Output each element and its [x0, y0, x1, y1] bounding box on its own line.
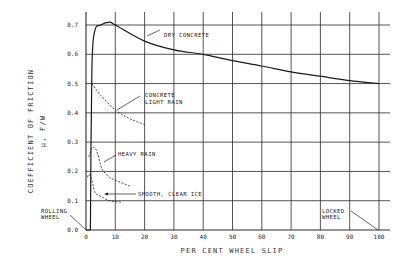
y-tick-label: 0.5	[67, 80, 78, 87]
friction-chart: 0.00.10.20.30.40.50.60.7 010203040506070…	[0, 0, 418, 266]
x-tick-label: 100	[374, 233, 385, 240]
y-tick-label: 0.4	[67, 109, 78, 116]
x-tick-label: 40	[200, 233, 208, 240]
annotation-light-rain-line1: CONCRETE	[145, 92, 175, 98]
y-axis-ticks: 0.00.10.20.30.40.50.60.7	[67, 21, 78, 233]
series-concrete-light-rain	[92, 84, 145, 125]
y-tick-label: 0.2	[67, 167, 78, 174]
annotation-rolling-wheel-line2: WHEEL	[41, 214, 60, 220]
annotation-rolling-wheel: ROLLING WHEEL	[41, 208, 86, 230]
x-tick-label: 10	[112, 233, 120, 240]
x-tick-label: 30	[170, 233, 178, 240]
y-axis-label: COEFFICIENT OF FRICTION	[27, 69, 35, 194]
y-tick-label: 0.0	[67, 226, 78, 233]
x-tick-label: 0	[84, 233, 88, 240]
annotation-dry-concrete-text: DRY CONCRETE	[164, 32, 209, 38]
annotation-light-rain: CONCRETE LIGHT RAIN	[117, 92, 183, 110]
x-tick-label: 80	[317, 233, 325, 240]
y-axis-sub-label: μ, F/W	[39, 115, 47, 148]
x-tick-label: 60	[258, 233, 266, 240]
x-tick-label: 20	[141, 233, 149, 240]
y-tick-label: 0.3	[67, 138, 78, 145]
series-dry-concrete	[90, 22, 379, 230]
y-tick-label: 0.1	[67, 197, 78, 204]
annotation-heavy-rain-text: HEAVY RAIN	[118, 151, 156, 157]
x-axis-ticks: 0102030405060708090100	[84, 233, 385, 240]
annotation-heavy-rain: HEAVY RAIN	[104, 151, 156, 162]
annotation-dry-concrete: DRY CONCRETE	[147, 30, 209, 38]
y-tick-label: 0.7	[67, 21, 78, 28]
y-tick-label: 0.6	[67, 50, 78, 57]
series-smooth-clear-ice	[88, 174, 122, 202]
annotation-smooth-ice-text: SMOOTH, CLEAR ICE	[138, 191, 202, 197]
x-tick-label: 90	[346, 233, 354, 240]
x-tick-label: 50	[229, 233, 237, 240]
chart-grid	[86, 12, 390, 230]
x-axis-label: PER CENT WHEEL SLIP	[181, 247, 284, 255]
annotation-light-rain-line2: LIGHT RAIN	[145, 99, 183, 105]
annotation-locked-wheel-line2: WHEEL	[322, 214, 341, 220]
annotation-smooth-ice: SMOOTH, CLEAR ICE	[104, 191, 202, 197]
x-tick-label: 70	[287, 233, 295, 240]
